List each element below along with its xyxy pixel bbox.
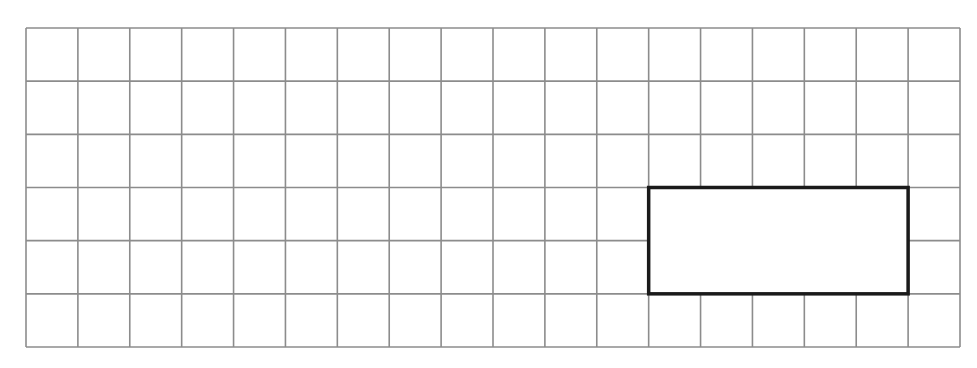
highlighted-rectangle xyxy=(649,188,908,294)
grid-diagram xyxy=(0,0,977,368)
